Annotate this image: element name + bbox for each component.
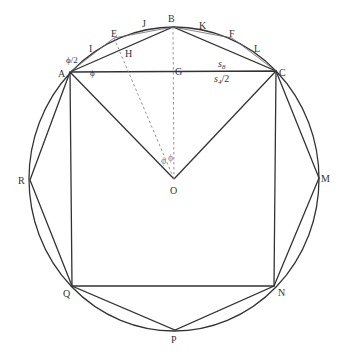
- label-E: E: [111, 28, 117, 39]
- label-P: P: [171, 334, 177, 345]
- label-M: M: [321, 173, 330, 184]
- label-C: C: [279, 67, 286, 78]
- label-phi-at-O-left: ϕ: [161, 155, 166, 166]
- label-N: N: [278, 287, 285, 298]
- radius-OA: [70, 72, 174, 179]
- label-F: F: [229, 28, 235, 39]
- label-phi-at-O-right: ϕ: [168, 152, 173, 163]
- label-L: L: [254, 43, 260, 54]
- label-O: O: [170, 185, 177, 196]
- label-phi-at-A: ϕ: [90, 68, 95, 78]
- label-I: I: [89, 43, 92, 54]
- label-phi-half: ϕ/2: [66, 55, 78, 65]
- label-A: A: [58, 68, 66, 79]
- label-s8: s8: [218, 58, 226, 71]
- label-Q: Q: [63, 288, 71, 299]
- label-H: H: [125, 48, 132, 59]
- label-J: J: [142, 18, 146, 29]
- label-R: R: [18, 175, 25, 186]
- label-K: K: [199, 20, 207, 31]
- label-B: B: [168, 13, 175, 24]
- label-G: G: [175, 66, 182, 77]
- radius-OC: [174, 71, 276, 179]
- geometry-diagram: B A C E F G H I J K L M N O P Q R ϕ/2 ϕ …: [0, 0, 349, 355]
- label-s4-half: s4/2: [214, 73, 229, 86]
